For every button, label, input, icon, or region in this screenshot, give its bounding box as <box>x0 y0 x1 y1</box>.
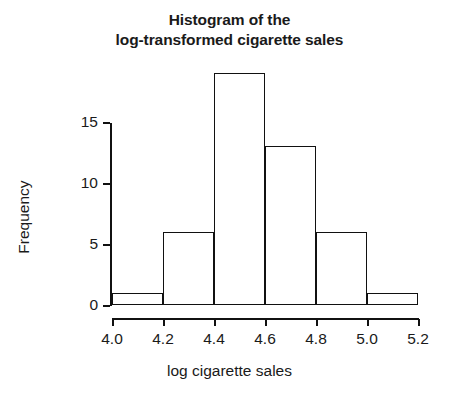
y-tick-label: 0 <box>64 297 98 312</box>
x-tick-mark <box>163 319 165 326</box>
y-axis-tick-labels: 051015 <box>52 0 98 413</box>
histogram-bar <box>163 232 214 305</box>
x-tick-mark <box>112 319 114 326</box>
y-tick-mark <box>103 305 110 307</box>
y-tick-mark <box>103 183 110 185</box>
plot-area <box>112 73 418 305</box>
histogram-bar <box>316 232 367 305</box>
x-tick-mark <box>214 319 216 326</box>
y-tick-label: 10 <box>64 175 98 190</box>
x-tick-mark <box>316 319 318 326</box>
histogram-bar <box>214 73 265 305</box>
x-tick-label: 4.6 <box>242 330 288 348</box>
histogram-bar <box>265 146 316 305</box>
histogram-bar <box>367 293 418 305</box>
histogram-figure: Histogram of the log-transformed cigaret… <box>0 0 459 413</box>
x-tick-label: 5.0 <box>344 330 390 348</box>
x-tick-label: 4.8 <box>293 330 339 348</box>
y-tick-mark <box>103 244 110 246</box>
y-tick-label: 5 <box>64 236 98 251</box>
histogram-bar <box>112 293 163 305</box>
y-axis-line <box>110 123 112 306</box>
x-tick-label: 5.2 <box>395 330 441 348</box>
x-tick-mark <box>418 319 420 326</box>
x-tick-label: 4.2 <box>140 330 186 348</box>
x-tick-label: 4.4 <box>191 330 237 348</box>
y-axis-title: Frequency <box>15 157 33 277</box>
x-axis-title: log cigarette sales <box>0 362 459 380</box>
x-tick-mark <box>367 319 369 326</box>
y-tick-label: 15 <box>64 114 98 129</box>
y-tick-mark <box>103 122 110 124</box>
x-tick-mark <box>265 319 267 326</box>
x-tick-label: 4.0 <box>89 330 135 348</box>
